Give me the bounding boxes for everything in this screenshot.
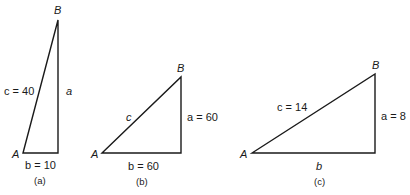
side-a-label: a xyxy=(66,85,72,97)
caption-a: (a) xyxy=(34,175,46,186)
side-c-label: c = 14 xyxy=(277,101,307,113)
vertex-b-label: B xyxy=(54,4,61,16)
triangle-b: B A c a = 60 b = 60 (b) xyxy=(90,62,218,187)
vertex-a-label: A xyxy=(11,148,19,160)
side-a-label: a = 60 xyxy=(187,111,218,123)
triangle-c: B A c = 14 a = 8 b (c) xyxy=(239,59,406,187)
right-triangles-diagram: B A c = 40 a b = 10 (a) B A c a = 60 b =… xyxy=(0,0,410,195)
triangle-a: B A c = 40 a b = 10 (a) xyxy=(4,4,72,186)
side-c-label: c = 40 xyxy=(4,85,34,97)
triangle-b-shape xyxy=(102,77,181,153)
triangle-c-shape xyxy=(252,74,375,153)
side-a-label: a = 8 xyxy=(381,110,406,122)
vertex-b-label: B xyxy=(372,59,379,71)
side-b-label: b xyxy=(316,160,322,172)
side-c-label: c xyxy=(126,111,132,123)
vertex-a-label: A xyxy=(239,148,247,160)
caption-c: (c) xyxy=(314,176,325,187)
side-b-label: b = 10 xyxy=(25,159,56,171)
side-b-label: b = 60 xyxy=(128,160,159,172)
vertex-a-label: A xyxy=(90,148,98,160)
caption-b: (b) xyxy=(136,176,148,187)
vertex-b-label: B xyxy=(177,62,184,74)
